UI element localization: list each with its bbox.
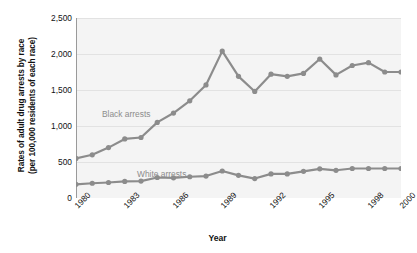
data-point	[155, 120, 160, 125]
data-point	[236, 74, 241, 79]
data-point	[333, 168, 338, 173]
data-point	[220, 168, 225, 173]
data-point	[398, 166, 401, 171]
data-point	[106, 180, 111, 185]
data-point	[76, 182, 79, 187]
data-point	[268, 72, 273, 77]
data-point	[366, 166, 371, 171]
series-label-black: Black arrests	[102, 110, 150, 118]
data-point	[301, 71, 306, 76]
data-point	[106, 145, 111, 150]
data-point	[285, 171, 290, 176]
y-tick-label: 2,500	[32, 14, 72, 22]
y-tick-label: 500	[32, 158, 72, 166]
data-point	[187, 98, 192, 103]
data-point	[171, 110, 176, 115]
chart-figure: Rates of adult drug arrests by race (per…	[0, 0, 417, 253]
data-point	[398, 69, 401, 74]
data-point	[333, 72, 338, 77]
data-point	[382, 69, 387, 74]
data-point	[138, 135, 143, 140]
chart-canvas	[76, 18, 401, 198]
data-point	[90, 181, 95, 186]
y-axis-title: Rates of adult drug arrests by race (per…	[16, 6, 37, 206]
y-tick-label: 1,000	[32, 122, 72, 130]
data-point	[203, 82, 208, 87]
plot-area	[76, 18, 401, 198]
data-point	[76, 156, 79, 161]
data-point	[122, 136, 127, 141]
data-point	[138, 178, 143, 183]
data-point	[382, 166, 387, 171]
data-point	[285, 74, 290, 79]
data-point	[252, 176, 257, 181]
data-point	[90, 152, 95, 157]
series-label-white: White arrests	[137, 170, 186, 178]
data-point	[366, 60, 371, 65]
data-point	[220, 49, 225, 54]
data-point	[317, 166, 322, 171]
data-point	[268, 171, 273, 176]
data-point	[203, 173, 208, 178]
data-point	[317, 56, 322, 61]
y-tick-label: 2,000	[32, 50, 72, 58]
data-point	[301, 169, 306, 174]
data-point	[252, 89, 257, 94]
y-tick-label: 1,500	[32, 86, 72, 94]
x-axis-title: Year	[0, 233, 417, 243]
data-point	[350, 166, 355, 171]
data-point	[236, 173, 241, 178]
data-point	[350, 63, 355, 68]
y-tick-label: 0	[32, 194, 72, 202]
data-point	[187, 174, 192, 179]
data-point	[122, 179, 127, 184]
